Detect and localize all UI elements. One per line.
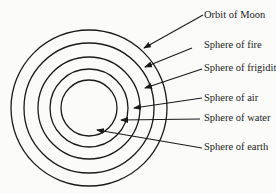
label-orbit-of-moon: Orbit of Moon xyxy=(204,10,265,21)
label-sphere-of-fire: Sphere of fire xyxy=(204,40,262,51)
label-sphere-of-air: Sphere of air xyxy=(204,93,258,104)
arrow-sphere-of-fire xyxy=(145,48,192,67)
circle-inner xyxy=(61,80,117,136)
arrow-sphere-of-water xyxy=(121,119,200,120)
circle-ring-3 xyxy=(38,57,140,159)
concentric-circles xyxy=(11,30,167,186)
arrow-sphere-of-air xyxy=(134,98,202,108)
arrow-sphere-of-frigidity xyxy=(145,69,202,88)
arrow-orbit-of-moon xyxy=(144,15,203,48)
circle-ring-4 xyxy=(50,69,128,147)
label-sphere-of-earth: Sphere of earth xyxy=(204,142,268,153)
label-arrows xyxy=(97,15,203,148)
label-sphere-of-frigidity: Sphere of frigidity xyxy=(204,63,276,74)
circle-outer xyxy=(11,30,167,186)
label-sphere-of-water: Sphere of water xyxy=(204,113,270,124)
